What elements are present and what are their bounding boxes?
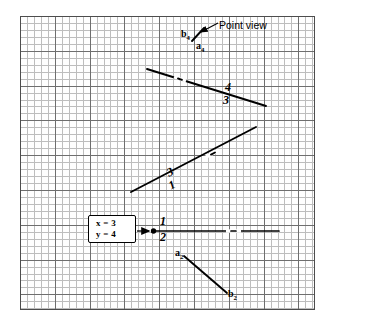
value-box-x: x = 3 bbox=[96, 218, 116, 229]
label-b4: b4 bbox=[181, 28, 190, 41]
located-point-marker bbox=[151, 228, 156, 233]
drawing-overlay bbox=[0, 0, 367, 329]
label-b4-subscript: 4 bbox=[187, 34, 190, 41]
label-a2: a2 bbox=[175, 247, 183, 260]
fold-line-4-3-break-dot bbox=[178, 79, 182, 80]
label-a4: a4 bbox=[196, 40, 204, 53]
label-a4-subscript: 4 bbox=[201, 46, 204, 53]
fold-label-3: 3 bbox=[223, 93, 229, 108]
value-box-y: y = 4 bbox=[96, 229, 116, 240]
fold-line-3-1 bbox=[131, 127, 256, 192]
fold-label-2-horiz: 2 bbox=[160, 230, 166, 245]
label-b2-subscript: 2 bbox=[234, 294, 237, 301]
line-a2-b2 bbox=[184, 256, 227, 293]
fold-label-1-horiz: 1 bbox=[160, 214, 166, 229]
figure-canvas: Point view b4 a4 4 3 3 1 1 2 a2 b2 x = 3… bbox=[0, 0, 367, 329]
coordinate-value-box: x = 3 y = 4 bbox=[88, 215, 136, 243]
label-b2: b2 bbox=[228, 288, 237, 301]
fold-line-4-3 bbox=[147, 69, 266, 106]
label-a2-subscript: 2 bbox=[180, 253, 183, 260]
point-view-label: Point view bbox=[219, 19, 267, 31]
